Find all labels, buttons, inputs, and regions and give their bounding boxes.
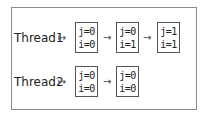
thread1-state-1: j=0 i=0: [75, 22, 98, 53]
right-arrow-icon: →: [103, 32, 111, 44]
state-j-value: j=0: [76, 69, 97, 82]
maps-to-arrow-icon: ↦: [58, 32, 66, 44]
state-j-value: j=0: [117, 25, 138, 38]
thread1-state-3: j=1 i=1: [157, 22, 180, 53]
right-arrow-icon: →: [143, 32, 151, 44]
state-j-value: j=1: [158, 25, 179, 38]
state-i-value: i=0: [117, 82, 138, 95]
thread2-label: Thread2: [14, 75, 64, 89]
state-i-value: i=0: [76, 82, 97, 95]
thread2-state-2: j=0 i=0: [116, 66, 139, 97]
thread1-label: Thread1: [14, 31, 64, 45]
maps-to-arrow-icon: ↦: [58, 76, 66, 88]
thread2-state-1: j=0 i=0: [75, 66, 98, 97]
state-i-value: i=1: [158, 38, 179, 51]
thread1-state-2: j=0 i=1: [116, 22, 139, 53]
state-i-value: i=1: [117, 38, 138, 51]
state-i-value: i=0: [76, 38, 97, 51]
state-j-value: j=0: [117, 69, 138, 82]
right-arrow-icon: →: [103, 76, 111, 88]
state-j-value: j=0: [76, 25, 97, 38]
